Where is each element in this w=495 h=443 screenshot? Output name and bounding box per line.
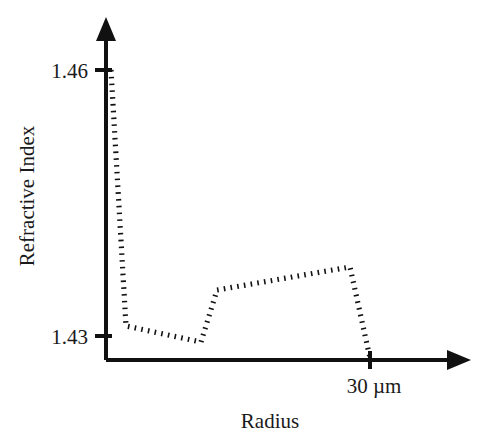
y-axis-tick-label-upper: 1.46 <box>51 59 88 83</box>
refractive-index-profile-figure: 1.46 1.43 30 µm Radius Refractive Index <box>0 0 495 443</box>
chart-canvas: 1.46 1.43 30 µm Radius Refractive Index <box>0 0 495 443</box>
x-axis-title: Radius <box>241 409 299 433</box>
y-axis-arrow-icon <box>96 17 116 41</box>
refractive-index-curve <box>111 70 370 358</box>
y-axis-title: Refractive Index <box>15 125 39 266</box>
y-axis-tick-label-lower: 1.43 <box>51 325 88 349</box>
x-axis-tick-label-30um: 30 µm <box>347 374 402 398</box>
x-axis-arrow-icon <box>447 350 471 370</box>
